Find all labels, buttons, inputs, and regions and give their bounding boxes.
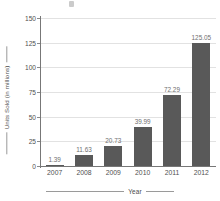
bar-value-label: 1.39 (48, 156, 60, 163)
x-axis-tick-label: 2012 (194, 169, 209, 176)
bar-value-label: 39.99 (135, 118, 151, 125)
bar-group: 125.05 (187, 18, 216, 166)
bar (192, 43, 210, 166)
bar-chart: Units Sold (in millions) 025507510012515… (0, 0, 220, 201)
bar (134, 127, 152, 166)
x-axis-tick-labels: 200720082009201020112012 (40, 169, 216, 181)
y-axis-tick-label: 25 (14, 138, 36, 145)
x-axis-tick-label: 2011 (165, 169, 180, 176)
bar-group: 1.39 (40, 18, 69, 166)
bar-group: 11.63 (69, 18, 98, 166)
y-axis-title-dash-left (7, 132, 8, 154)
bar-value-label: 72.29 (164, 86, 180, 93)
bar (75, 155, 93, 166)
bar-group: 39.99 (128, 18, 157, 166)
y-axis-tick-label: 125 (14, 39, 36, 46)
x-axis-title-dash-left (46, 191, 124, 192)
x-axis-title-dash-right (146, 191, 174, 192)
y-axis-title-text: Units Sold (in millions) (4, 65, 11, 129)
bar-group: 72.29 (157, 18, 186, 166)
bars-layer: 1.3911.6320.7339.9972.29125.05 (40, 18, 216, 166)
y-axis-tick-label: 50 (14, 113, 36, 120)
bar-group: 20.73 (99, 18, 128, 166)
x-axis-tick-label: 2008 (76, 169, 91, 176)
y-axis-tick-label: 100 (14, 64, 36, 71)
bar-value-label: 20.73 (105, 137, 121, 144)
bar (163, 95, 181, 166)
y-axis-tick-label: 150 (14, 15, 36, 22)
y-axis-title-dash-right (7, 46, 8, 62)
bar-value-label: 11.63 (76, 146, 92, 153)
x-axis-tick-label: 2010 (135, 169, 150, 176)
bar (46, 165, 64, 166)
bar (104, 146, 122, 166)
x-axis-line (40, 166, 216, 167)
y-axis-title: Units Sold (in millions) (0, 34, 14, 166)
y-axis-tick-label: 0 (14, 163, 36, 170)
x-axis-tick-label: 2009 (106, 169, 121, 176)
bar-value-label: 125.05 (192, 34, 212, 41)
x-axis-title: Year (0, 184, 220, 198)
x-axis-title-text: Year (128, 188, 141, 195)
top-artifact-mark (69, 1, 74, 7)
x-axis-tick-label: 2007 (47, 169, 62, 176)
y-axis-tick-label: 75 (14, 89, 36, 96)
